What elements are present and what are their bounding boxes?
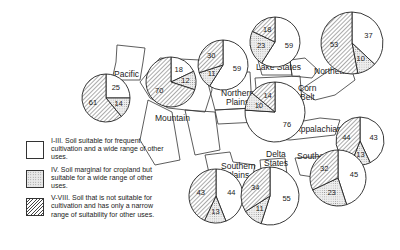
pie-value: 14 — [263, 91, 271, 100]
pie-pacific: 251461 — [82, 74, 130, 122]
pie-value: 11 — [208, 69, 216, 78]
label-mountain: Mountain — [155, 113, 190, 123]
legend-item-v-viii: V-VIII. Soil that is not suitable for cu… — [26, 194, 171, 219]
pie-lake-states: 592318 — [250, 17, 300, 67]
pie-value: 37 — [364, 31, 372, 40]
pie-value: 43 — [197, 188, 205, 197]
blank-swatch-icon — [26, 141, 44, 159]
pie-value: 12 — [181, 76, 189, 85]
pie-value: 23 — [257, 41, 265, 50]
label-delta-states-2: States — [264, 158, 288, 168]
pie-value: 70 — [155, 86, 163, 95]
pie-slice-v-viii — [321, 12, 358, 74]
pie-value: 76 — [283, 120, 291, 129]
pie-southern-plains: 441343 — [189, 169, 243, 223]
legend: I-III. Soil suitable for frequent cultiv… — [26, 137, 171, 223]
pie-value: 44 — [342, 133, 350, 142]
pie-value: 45 — [350, 170, 358, 179]
pie-value: 32 — [320, 164, 328, 173]
pie-value: 18 — [175, 65, 183, 74]
pie-value: 61 — [89, 98, 97, 107]
pie-value: 53 — [330, 40, 338, 49]
pie-value: 10 — [255, 101, 263, 110]
dotted-swatch-icon — [26, 170, 44, 188]
hatched-swatch-icon — [26, 198, 44, 216]
legend-item-iv: IV. Soil marginal for cropland but suita… — [26, 166, 171, 191]
legend-text: V-VIII. Soil that is not suitable for cu… — [51, 194, 171, 219]
pie-value: 59 — [233, 64, 241, 73]
pie-value: 30 — [207, 51, 215, 60]
pie-corn-belt: 761014 — [245, 82, 305, 142]
pie-value: 14 — [114, 99, 122, 108]
pie-value: 59 — [285, 41, 293, 50]
pie-northern-plains: 591130 — [198, 40, 248, 90]
pie-value: 25 — [112, 83, 120, 92]
pie-value: 13 — [211, 207, 219, 216]
pie-northeast: 371053 — [321, 12, 383, 74]
pie-value: 11 — [256, 204, 264, 213]
pie-value: 43 — [369, 133, 377, 142]
pie-value: 44 — [227, 188, 235, 197]
legend-text: I-III. Soil suitable for frequent cultiv… — [51, 137, 171, 162]
pie-mountain: 181270 — [146, 57, 196, 107]
pie-delta-states: 551134 — [241, 167, 299, 225]
pie-value: 34 — [251, 183, 259, 192]
legend-text: IV. Soil marginal for cropland but suita… — [51, 166, 171, 191]
pie-value: 18 — [263, 25, 271, 34]
pie-value: 10 — [356, 54, 364, 63]
pie-value: 55 — [282, 194, 290, 203]
pie-value: 23 — [327, 188, 335, 197]
legend-item-i-iii: I-III. Soil suitable for frequent cultiv… — [26, 137, 171, 162]
pie-southeast: 452332 — [310, 150, 366, 206]
